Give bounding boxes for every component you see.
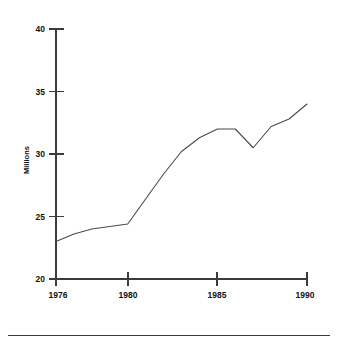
y-tick-label-30: 30 — [36, 149, 46, 159]
y-tick-label-35: 35 — [36, 87, 46, 97]
line-chart: 40 35 30 25 20 1976 1980 1985 1990 Milli… — [0, 0, 338, 343]
y-tick-label-40: 40 — [36, 24, 46, 34]
x-tick-label-1980: 1980 — [119, 290, 138, 300]
chart-figure: 40 35 30 25 20 1976 1980 1985 1990 Milli… — [0, 0, 338, 343]
x-tick-label-1990: 1990 — [296, 290, 315, 300]
y-axis-title: Millions — [22, 146, 31, 174]
x-tick-label-1976: 1976 — [49, 290, 68, 300]
y-tick-label-25: 25 — [36, 212, 46, 222]
footer-divider — [8, 335, 330, 336]
y-tick-label-20: 20 — [36, 274, 46, 284]
x-tick-label-1985: 1985 — [208, 290, 227, 300]
